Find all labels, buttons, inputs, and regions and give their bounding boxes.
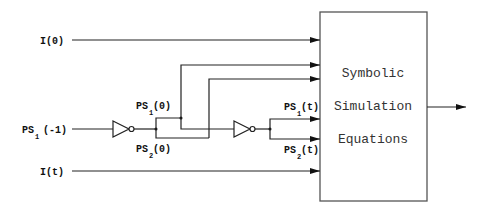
inverter-2-icon	[234, 121, 255, 137]
symbolic-simulation-diagram: Symbolic Simulation Equations I(0) I(t) …	[0, 0, 486, 211]
svg-text:(-1): (-1)	[43, 125, 67, 136]
wire-ps1-t	[270, 119, 320, 129]
box-line-1: Symbolic	[342, 66, 404, 81]
svg-text:(t): (t)	[301, 145, 319, 156]
svg-text:(t): (t)	[301, 102, 319, 113]
label-ps1-t: PS 1 (t)	[284, 102, 319, 118]
label-ps1-0: PS 1 (0)	[136, 101, 171, 117]
inverter-1-icon	[113, 121, 134, 137]
label-it: I(t)	[40, 167, 64, 178]
box-line-2: Simulation	[334, 99, 412, 114]
wire-ps2-t	[270, 129, 320, 139]
label-ps2-t: PS 2 (t)	[284, 145, 319, 161]
label-i0: I(0)	[40, 36, 64, 47]
svg-text:(0): (0)	[153, 144, 171, 155]
svg-text:PS: PS	[284, 145, 296, 156]
label-ps2-0: PS 2 (0)	[136, 144, 171, 160]
box-line-3: Equations	[338, 132, 408, 147]
svg-text:1: 1	[35, 133, 39, 141]
label-ps1-minus1: PS 1 (-1)	[22, 125, 67, 141]
svg-text:PS: PS	[284, 102, 296, 113]
svg-text:(0): (0)	[153, 101, 171, 112]
svg-text:PS: PS	[22, 125, 34, 136]
svg-text:PS: PS	[136, 101, 148, 112]
svg-text:PS: PS	[136, 144, 148, 155]
